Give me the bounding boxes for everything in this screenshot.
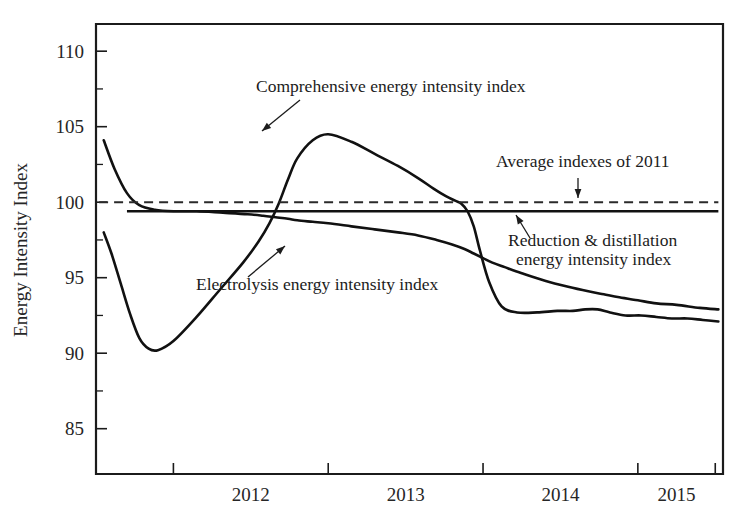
energy-intensity-index-line-chart: 859095100105110 2012201320142015 Energy … <box>0 0 749 526</box>
annotation-label: Electrolysis energy intensity index <box>196 274 438 294</box>
y-axis-title: Energy Intensity Index <box>10 163 31 337</box>
annotation-label: Reduction & distillation <box>508 230 677 250</box>
annotation-label: energy intensity index <box>516 249 671 269</box>
y-tick-label: 90 <box>65 343 84 364</box>
x-tick-label: 2013 <box>387 484 425 505</box>
annotation-label: Comprehensive energy intensity index <box>256 76 526 96</box>
y-tick-label: 100 <box>56 192 85 213</box>
chart-figure: 859095100105110 2012201320142015 Energy … <box>0 0 749 526</box>
annotation-label: Average indexes of 2011 <box>496 151 669 171</box>
y-tick-label: 110 <box>56 41 84 62</box>
x-tick-label: 2012 <box>232 484 270 505</box>
x-tick-label: 2014 <box>541 484 580 505</box>
y-tick-label: 105 <box>56 116 85 137</box>
y-tick-label: 85 <box>65 418 84 439</box>
y-tick-label: 95 <box>65 267 84 288</box>
x-tick-label: 2015 <box>658 484 696 505</box>
